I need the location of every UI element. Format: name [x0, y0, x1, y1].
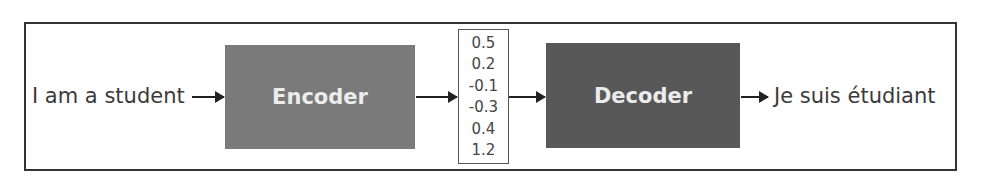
encoder-label: Encoder: [272, 85, 368, 109]
decoder-label: Decoder: [594, 84, 692, 108]
encoder-block: Encoder: [225, 45, 415, 149]
vector-value: -0.1: [469, 77, 498, 95]
output-sentence: Je suis étudiant: [774, 84, 936, 108]
vector-value: 0.2: [472, 55, 496, 73]
vector-value: 0.4: [472, 120, 496, 138]
vector-value: -0.3: [469, 98, 498, 116]
input-sentence: I am a student: [32, 84, 185, 108]
decoder-block: Decoder: [546, 43, 740, 148]
arrow-encoder-to-vector: [416, 96, 457, 98]
vector-value: 0.5: [472, 34, 496, 52]
arrow-input-to-encoder: [192, 96, 224, 98]
arrow-decoder-to-output: [741, 96, 768, 98]
context-vector: 0.5 0.2 -0.1 -0.3 0.4 1.2: [458, 29, 509, 164]
arrow-vector-to-decoder: [509, 96, 545, 98]
vector-value: 1.2: [472, 141, 496, 159]
